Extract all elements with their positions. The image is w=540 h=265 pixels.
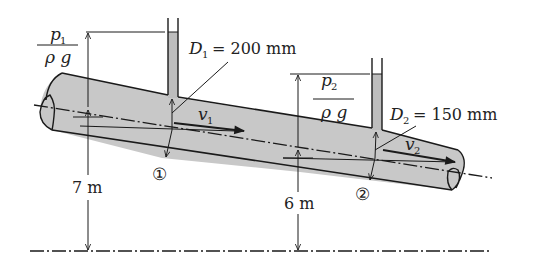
- diagram-svg: p 1 ρ g p 2 ρ g D 1 = 200 mm D 2 = 150 m…: [0, 0, 540, 265]
- pipe-flow-diagram: p 1 ρ g p 2 ρ g D 1 = 200 mm D 2 = 150 m…: [0, 0, 540, 265]
- section-2-marker: ②: [355, 184, 370, 204]
- svg-text:2: 2: [331, 81, 337, 92]
- svg-text:D: D: [389, 104, 404, 124]
- svg-text:1: 1: [207, 115, 213, 126]
- pipe: [40, 73, 464, 190]
- velocity-2-label: v 2: [405, 134, 420, 156]
- svg-text:D: D: [188, 38, 203, 58]
- svg-text:1: 1: [202, 49, 208, 60]
- svg-text:2: 2: [403, 115, 409, 126]
- piezometer-1: [168, 18, 178, 98]
- pressure-head-1-denominator: ρ g: [44, 47, 71, 67]
- section-1-marker: ①: [152, 164, 167, 184]
- piezometer-1-water: [168, 32, 178, 98]
- diameter-2-label: D 2 = 150 mm: [389, 104, 497, 126]
- svg-text:2: 2: [414, 145, 420, 156]
- diameter-1-label: D 1 = 200 mm: [188, 38, 296, 60]
- elevation-2-label: 6 m: [284, 194, 314, 213]
- elevation-1-label: 7 m: [72, 178, 102, 197]
- piezometer-2: [372, 58, 382, 130]
- svg-text:1: 1: [60, 35, 66, 46]
- pressure-head-2-denominator: ρ g: [320, 102, 347, 122]
- pressure-head-2-label: p 2 ρ g: [313, 70, 354, 122]
- diameter-2-value: = 150 mm: [413, 105, 497, 124]
- pipe-body: [40, 73, 463, 190]
- piezometer-2-water: [372, 74, 382, 130]
- diameter-1-value: = 200 mm: [212, 39, 296, 58]
- pressure-head-1-label: p 1 ρ g: [37, 24, 78, 67]
